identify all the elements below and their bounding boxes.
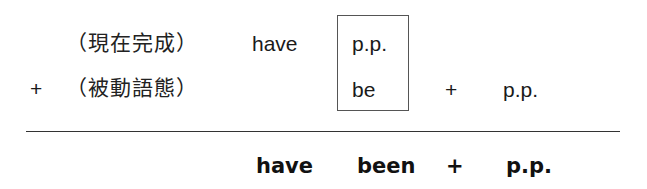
- have-auxiliary: have: [252, 33, 298, 54]
- past-participle: p.p.: [503, 79, 538, 100]
- result-past-participle: p.p.: [506, 156, 552, 177]
- boxed-be: be: [352, 79, 375, 100]
- result-been: been: [357, 156, 415, 177]
- result-have: have: [256, 156, 313, 177]
- result-plus: +: [446, 156, 464, 177]
- divider-line: [26, 131, 620, 132]
- present-perfect-label: （現在完成）: [66, 33, 198, 54]
- boxed-past-participle: p.p.: [352, 33, 387, 54]
- plus-prefix: +: [30, 78, 42, 99]
- passive-voice-label: （被動語態）: [66, 78, 198, 99]
- plus-sign: +: [445, 79, 457, 100]
